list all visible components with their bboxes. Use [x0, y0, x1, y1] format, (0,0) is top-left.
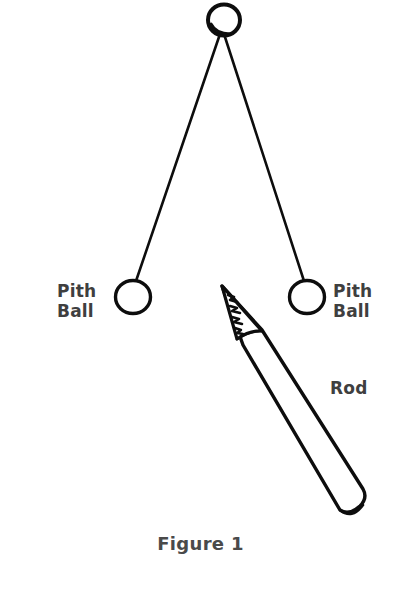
pith-ball-right-circle — [290, 281, 325, 314]
label-pith-ball-right-line1: Pith — [333, 281, 372, 301]
pith-ball-left — [116, 281, 151, 314]
label-rod: Rod — [330, 378, 368, 398]
label-pith-ball-left: Pith Ball — [57, 281, 96, 321]
label-pith-ball-left-line1: Pith — [57, 281, 96, 301]
figure-caption: Figure 1 — [0, 533, 401, 554]
string-right-line — [224, 34, 304, 281]
string-group — [136, 34, 304, 281]
anchor-knot-circle — [208, 5, 240, 36]
figure-canvas: Pith Ball Pith Ball Rod Figure 1 — [0, 0, 401, 595]
pith-ball-right — [290, 281, 325, 314]
label-pith-ball-left-line2: Ball — [57, 301, 96, 321]
label-pith-ball-right-line2: Ball — [333, 301, 372, 321]
anchor-knot — [208, 5, 240, 36]
label-pith-ball-right: Pith Ball — [333, 281, 372, 321]
pith-ball-left-circle — [116, 281, 151, 314]
string-left-line — [136, 34, 220, 281]
